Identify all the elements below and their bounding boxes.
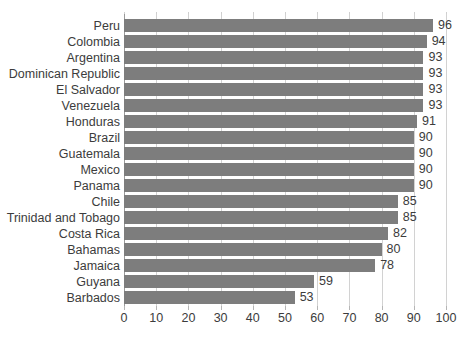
tick-label: 60: [310, 311, 324, 325]
bar-value-label: 59: [319, 274, 333, 290]
value-axis: 0102030405060708090100: [124, 306, 446, 312]
bar: [124, 227, 388, 240]
bar: [124, 291, 295, 304]
category-label: Bahamas: [0, 242, 120, 258]
bar-row: 82: [124, 226, 446, 242]
bar-row: 59: [124, 274, 446, 290]
bar: [124, 163, 414, 176]
bar: [124, 195, 398, 208]
category-label: Dominican Republic: [0, 66, 120, 82]
category-label: Argentina: [0, 50, 120, 66]
bar: [124, 35, 427, 48]
category-label: Guyana: [0, 274, 120, 290]
tick-label: 30: [214, 311, 228, 325]
bar-value-label: 90: [419, 178, 433, 194]
category-label: Jamaica: [0, 258, 120, 274]
bar-value-label: 90: [419, 146, 433, 162]
category-label: Colombia: [0, 34, 120, 50]
bar: [124, 211, 398, 224]
bar-value-label: 80: [387, 242, 401, 258]
bar-value-label: 90: [419, 130, 433, 146]
tick-label: 70: [342, 311, 356, 325]
bar-row: 93: [124, 82, 446, 98]
bar-row: 53: [124, 290, 446, 306]
tick-label: 90: [407, 311, 421, 325]
category-label: Chile: [0, 194, 120, 210]
bar-value-label: 94: [432, 34, 446, 50]
bar: [124, 179, 414, 192]
bar-row: 90: [124, 162, 446, 178]
category-label: Costa Rica: [0, 226, 120, 242]
category-axis-labels: PeruColombiaArgentinaDominican RepublicE…: [0, 18, 120, 306]
tick-label: 0: [121, 311, 128, 325]
bar: [124, 83, 423, 96]
tick-mark-100: [446, 306, 447, 310]
bar-value-label: 93: [428, 82, 442, 98]
bar-value-label: 82: [393, 226, 407, 242]
bar-row: 90: [124, 178, 446, 194]
tick-mark-60: [317, 306, 318, 310]
bar: [124, 99, 423, 112]
bar-value-label: 78: [380, 258, 394, 274]
tick-mark-10: [156, 306, 157, 310]
tick-label: 20: [181, 311, 195, 325]
tick-mark-0: [124, 306, 125, 310]
bar-rows: 969493939393919090909085858280785953: [124, 18, 446, 306]
bar-row: 93: [124, 50, 446, 66]
bar: [124, 67, 423, 80]
category-label: Guatemala: [0, 146, 120, 162]
bar-row: 91: [124, 114, 446, 130]
bar-value-label: 90: [419, 162, 433, 178]
category-label: Panama: [0, 178, 120, 194]
bar: [124, 131, 414, 144]
tick-mark-70: [349, 306, 350, 310]
cropped-caption: [0, 338, 462, 349]
bar-value-label: 96: [438, 18, 452, 34]
tick-mark-90: [414, 306, 415, 310]
tick-label: 80: [375, 311, 389, 325]
plot-area: 969493939393919090909085858280785953: [124, 18, 446, 306]
bar: [124, 259, 375, 272]
bar: [124, 147, 414, 160]
bar-value-label: 93: [428, 66, 442, 82]
bar-value-label: 85: [403, 194, 417, 210]
bar-value-label: 93: [428, 50, 442, 66]
bar-row: 85: [124, 210, 446, 226]
category-label: Mexico: [0, 162, 120, 178]
category-label: Trinidad and Tobago: [0, 210, 120, 226]
tick-label: 40: [246, 311, 260, 325]
tick-mark-80: [382, 306, 383, 310]
bar-row: 93: [124, 66, 446, 82]
bar-value-label: 53: [300, 290, 314, 306]
tick-mark-50: [285, 306, 286, 310]
tick-label: 50: [278, 311, 292, 325]
bar-row: 93: [124, 98, 446, 114]
bar: [124, 19, 433, 32]
bar-row: 85: [124, 194, 446, 210]
bar-value-label: 85: [403, 210, 417, 226]
bar: [124, 275, 314, 288]
bar-row: 90: [124, 130, 446, 146]
tick-label: 100: [436, 311, 457, 325]
bar-row: 94: [124, 34, 446, 50]
category-label: Barbados: [0, 290, 120, 306]
bar: [124, 243, 382, 256]
bar-row: 96: [124, 18, 446, 34]
tick-label: 10: [149, 311, 163, 325]
bar-row: 90: [124, 146, 446, 162]
bar: [124, 115, 417, 128]
bar-row: 80: [124, 242, 446, 258]
bar-value-label: 91: [422, 114, 436, 130]
category-label: Brazil: [0, 130, 120, 146]
bar-value-label: 93: [428, 98, 442, 114]
category-label: Venezuela: [0, 98, 120, 114]
bar-chart: PeruColombiaArgentinaDominican RepublicE…: [0, 0, 462, 349]
tick-mark-30: [221, 306, 222, 310]
category-label: Honduras: [0, 114, 120, 130]
category-label: Peru: [0, 18, 120, 34]
category-label: El Salvador: [0, 82, 120, 98]
bar-row: 78: [124, 258, 446, 274]
gridline-100: [446, 14, 447, 310]
bar: [124, 51, 423, 64]
tick-mark-20: [188, 306, 189, 310]
